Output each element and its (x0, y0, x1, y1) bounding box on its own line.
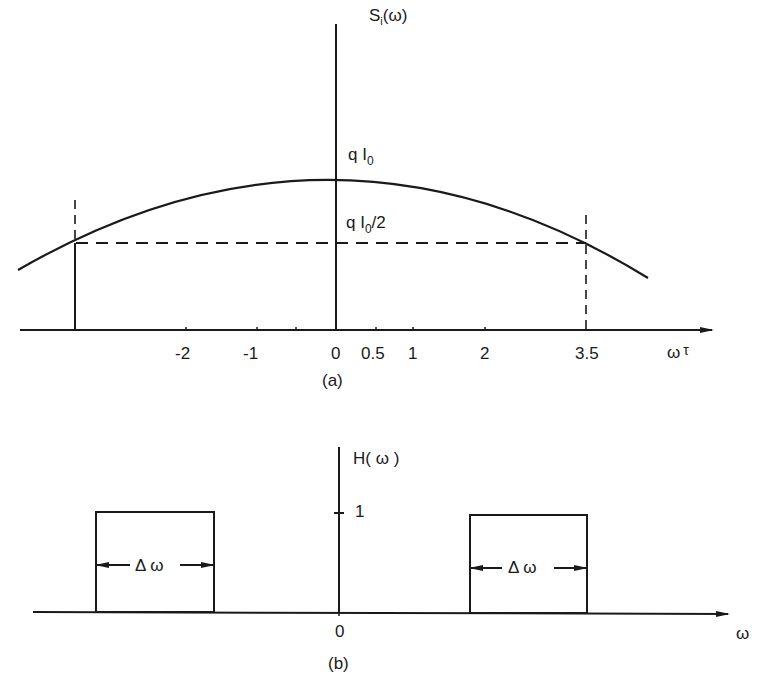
right-bandwidth-label: Δ ω (506, 559, 538, 576)
tick-label-0-5: 0.5 (361, 345, 385, 362)
b-y-tick-label: 1 (355, 503, 364, 520)
half-value-label: q I0/2 (346, 214, 386, 231)
caption-a: (a) (322, 372, 343, 389)
a-x-label-main: ω (667, 343, 680, 362)
b-origin-label: 0 (335, 623, 344, 640)
peak-label-sub: 0 (367, 154, 374, 168)
spectrum-curve (18, 180, 648, 278)
tick-label-neg1: -1 (243, 345, 258, 362)
half-label-rest: /2 (372, 213, 386, 232)
tick-label-neg2: -2 (175, 345, 190, 362)
left-bandwidth-label: Δ ω (133, 557, 165, 574)
tick-label-2: 2 (480, 345, 489, 362)
half-label-sub: 0 (365, 222, 372, 236)
figure-b (33, 447, 728, 616)
half-label-main: q I (346, 213, 365, 232)
a-y-axis-label: Si(ω) (369, 7, 407, 24)
tick-label-3-5: 3.5 (575, 345, 599, 362)
a-x-axis-label: ωτ (667, 344, 689, 361)
b-x-axis-label: ω (736, 625, 749, 642)
caption-b: (b) (328, 655, 349, 672)
peak-value-label: q I0 (348, 146, 374, 163)
b-y-axis-label: H( ω ) (353, 450, 399, 467)
a-x-label-sup: τ (683, 342, 689, 358)
tick-label-1: 1 (408, 345, 417, 362)
a-y-label-sub: i (380, 15, 382, 27)
a-y-label-arg: (ω) (383, 6, 408, 25)
tick-label-0: 0 (331, 345, 340, 362)
peak-label-main: q I (348, 145, 367, 164)
a-y-label-main: S (369, 6, 380, 25)
figure-a (18, 24, 712, 331)
